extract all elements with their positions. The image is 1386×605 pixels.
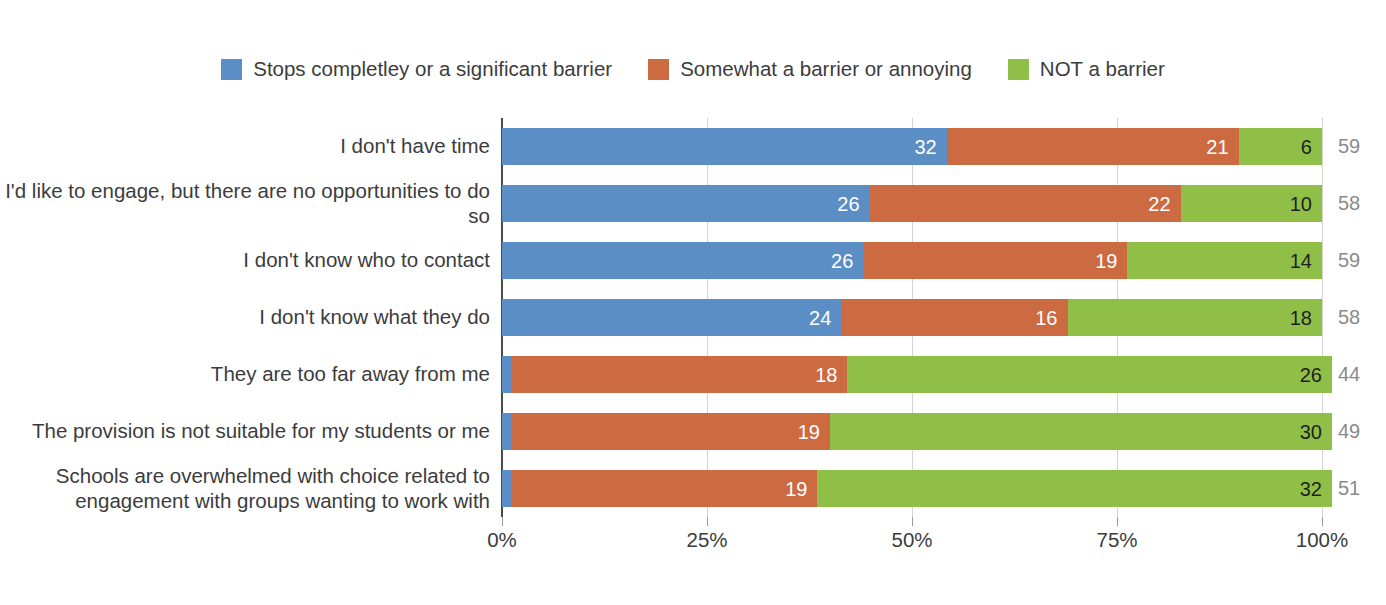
row-total-label: 44 (1338, 356, 1386, 393)
bar-segment[interactable]: 22 (870, 185, 1181, 222)
segment-value-label: 26 (831, 251, 853, 271)
bar-segment[interactable]: 24 (502, 299, 841, 336)
category-label: I don't know who to contact (0, 242, 490, 279)
bar-row[interactable]: 01930 (502, 413, 1322, 450)
bar-segment[interactable]: 14 (1127, 242, 1322, 279)
segment-value-label: 21 (1206, 137, 1228, 157)
bar-segment[interactable]: 16 (841, 299, 1067, 336)
category-label: I don't know what they do (0, 299, 490, 336)
bar-row[interactable]: 241618 (502, 299, 1322, 336)
bar-segment[interactable]: 26 (502, 185, 870, 222)
segment-value-label: 10 (1290, 194, 1312, 214)
category-label: Schools are overwhelmed with choice rela… (0, 470, 490, 507)
bar-segment[interactable]: 26 (502, 242, 863, 279)
gridline-100pct (1322, 118, 1323, 517)
segment-value-label: 18 (815, 365, 837, 385)
segment-value-label: 32 (914, 137, 936, 157)
bar-row[interactable]: 01826 (502, 356, 1322, 393)
bar-segment[interactable]: 19 (512, 470, 817, 507)
segment-value-label: 26 (837, 194, 859, 214)
bar-segment[interactable]: 6 (1239, 128, 1322, 165)
tick-mark-25pct (707, 517, 708, 526)
x-tick-label-50pct: 50% (891, 528, 932, 552)
bar-segment[interactable]: 32 (817, 470, 1332, 507)
row-total-label: 59 (1338, 128, 1386, 165)
segment-value-label: 19 (785, 479, 807, 499)
row-total-label: 51 (1338, 470, 1386, 507)
segment-value-label: 16 (1035, 308, 1057, 328)
bar-row[interactable]: 32216 (502, 128, 1322, 165)
bar-segment[interactable]: 18 (1068, 299, 1322, 336)
category-label: The provision is not suitable for my stu… (0, 413, 490, 450)
bar-segment[interactable]: 32 (502, 128, 947, 165)
row-total-label: 58 (1338, 299, 1386, 336)
x-tick-label-75pct: 75% (1096, 528, 1137, 552)
tick-mark-0pct (502, 517, 503, 526)
stacked-bar-chart: 0%25%50%75%100% I don't have timeI'd lik… (0, 0, 1386, 605)
bar-segment[interactable]: 18 (512, 356, 847, 393)
bar-segment[interactable]: 21 (947, 128, 1239, 165)
segment-value-label: 32 (1300, 479, 1322, 499)
bar-segment[interactable]: 0 (502, 356, 512, 393)
bar-segment[interactable]: 19 (512, 413, 830, 450)
x-tick-label-100pct: 100% (1296, 528, 1348, 552)
segment-value-label: 6 (1301, 137, 1312, 157)
segment-value-label: 30 (1300, 422, 1322, 442)
row-total-label: 58 (1338, 185, 1386, 222)
x-tick-label-0pct: 0% (487, 528, 517, 552)
bar-row[interactable]: 262210 (502, 185, 1322, 222)
category-label: They are too far away from me (0, 356, 490, 393)
category-label: I'd like to engage, but there are no opp… (0, 185, 490, 222)
segment-value-label: 24 (809, 308, 831, 328)
segment-value-label: 18 (1290, 308, 1312, 328)
segment-value-label: 19 (1095, 251, 1117, 271)
category-label: I don't have time (0, 128, 490, 165)
segment-value-label: 22 (1148, 194, 1170, 214)
row-total-label: 59 (1338, 242, 1386, 279)
row-total-label: 49 (1338, 413, 1386, 450)
bar-row[interactable]: 01932 (502, 470, 1322, 507)
segment-value-label: 26 (1300, 365, 1322, 385)
bar-segment[interactable]: 0 (502, 413, 512, 450)
tick-mark-75pct (1117, 517, 1118, 526)
x-tick-label-25pct: 25% (686, 528, 727, 552)
tick-mark-100pct (1322, 517, 1323, 526)
bar-segment[interactable]: 10 (1181, 185, 1322, 222)
bar-segment[interactable]: 19 (863, 242, 1127, 279)
segment-value-label: 14 (1290, 251, 1312, 271)
segment-value-label: 19 (798, 422, 820, 442)
bar-segment[interactable]: 0 (502, 470, 512, 507)
tick-mark-50pct (912, 517, 913, 526)
bar-row[interactable]: 261914 (502, 242, 1322, 279)
bar-segment[interactable]: 30 (830, 413, 1332, 450)
bar-segment[interactable]: 26 (847, 356, 1332, 393)
